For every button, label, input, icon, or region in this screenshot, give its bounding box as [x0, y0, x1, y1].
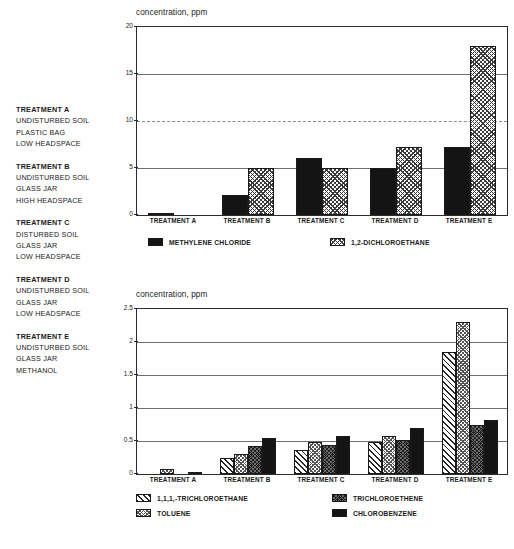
y-axis-tick-label: 5	[111, 163, 133, 170]
chart-title-bottom: concentration, ppm	[136, 290, 207, 299]
legend-item: TOLUENE	[136, 509, 190, 517]
x-axis-category-label: TREATMENT E	[432, 476, 506, 483]
bar	[382, 436, 396, 474]
chart-legend-bottom: 1,1,1,-TRICHLOROETHANETOLUENETRICHLOROET…	[130, 492, 510, 526]
bar-group	[444, 27, 496, 215]
bar	[368, 442, 382, 474]
bar	[248, 446, 262, 474]
legend-item: CHLOROBENZENE	[332, 509, 417, 517]
treatment-key: TREATMENT AUNDISTURBED SOILPLASTIC BAGLO…	[16, 104, 128, 387]
treatment-detail-line: GLASS JAR	[16, 353, 128, 364]
bar	[370, 168, 396, 215]
legend-swatch	[136, 494, 151, 502]
plot-area-bottom	[136, 308, 508, 475]
treatment-block: TREATMENT CDISTURBED SOILGLASS JARLOW HE…	[16, 217, 128, 263]
bar	[262, 438, 276, 474]
legend-label: 1,1,1,-TRICHLOROETHANE	[157, 495, 248, 502]
legend-label: 1,2-DICHLOROETHANE	[351, 239, 430, 246]
chart-title-top: concentration, ppm	[136, 8, 207, 17]
treatment-block: TREATMENT AUNDISTURBED SOILPLASTIC BAGLO…	[16, 104, 128, 150]
bar	[294, 450, 308, 474]
y-axis-tick-label: 20	[111, 22, 133, 29]
bar	[148, 213, 174, 215]
chart-methylene-dichloroethane: concentration, ppm METHYLENE CHLORIDE1,2…	[130, 4, 510, 259]
bar	[396, 440, 410, 474]
treatment-title: TREATMENT D	[16, 274, 128, 285]
bar-group	[442, 309, 498, 474]
bar	[410, 428, 424, 474]
y-axis-tick-label: 2.5	[111, 304, 133, 311]
y-axis-tick-mark	[134, 407, 138, 408]
legend-swatch	[332, 494, 347, 502]
treatment-detail-line: DISTURBED SOIL	[16, 229, 128, 240]
bar	[442, 352, 456, 474]
y-axis-tick-label: 15	[111, 69, 133, 76]
bar-group	[294, 309, 350, 474]
y-axis-tick-label: 2	[111, 337, 133, 344]
treatment-title: TREATMENT C	[16, 217, 128, 228]
treatment-title: TREATMENT A	[16, 104, 128, 115]
legend-label: METHYLENE CHLORIDE	[169, 239, 251, 246]
treatment-detail-line: LOW HEADSPACE	[16, 251, 128, 262]
bar-group	[222, 27, 274, 215]
legend-label: TRICHLOROETHENE	[353, 495, 423, 502]
treatment-detail-line: HIGH HEADSPACE	[16, 195, 128, 206]
legend-label: TOLUENE	[157, 510, 190, 517]
legend-swatch	[332, 509, 347, 517]
y-axis-tick-mark	[134, 473, 138, 474]
bar-group	[368, 309, 424, 474]
bar	[336, 436, 350, 474]
y-axis-tick-mark	[134, 73, 138, 74]
treatment-detail-line: UNDISTURBED SOIL	[16, 172, 128, 183]
bar-group	[146, 309, 202, 474]
bar	[322, 168, 348, 215]
figure-page: TREATMENT AUNDISTURBED SOILPLASTIC BAGLO…	[0, 0, 514, 549]
y-axis-tick-label: 0.5	[111, 436, 133, 443]
y-axis-tick-mark	[134, 440, 138, 441]
treatment-detail-line: PLASTIC BAG	[16, 127, 128, 138]
plot-area-top	[136, 26, 508, 216]
bar	[396, 147, 422, 215]
treatment-detail-line: GLASS JAR	[16, 240, 128, 251]
x-axis-category-label: TREATMENT C	[284, 217, 358, 224]
x-axis-category-label: TREATMENT D	[358, 217, 432, 224]
treatment-block: TREATMENT DUNDISTURBED SOILGLASS JARLOW …	[16, 274, 128, 320]
chart-legend-top: METHYLENE CHLORIDE1,2-DICHLOROETHANE	[130, 234, 510, 254]
legend-swatch	[136, 509, 151, 517]
legend-swatch	[148, 238, 163, 246]
y-axis-tick-mark	[134, 214, 138, 215]
x-axis-category-label: TREATMENT A	[136, 217, 210, 224]
x-axis-category-label: TREATMENT E	[432, 217, 506, 224]
bar	[470, 425, 484, 475]
treatment-detail-line: UNDISTURBED SOIL	[16, 285, 128, 296]
y-axis-tick-label: 1.5	[111, 370, 133, 377]
x-axis-category-label: TREATMENT C	[284, 476, 358, 483]
bar	[222, 195, 248, 215]
y-axis-tick-mark	[134, 308, 138, 309]
chart-voc-four-series: concentration, ppm 1,1,1,-TRICHLOROETHAN…	[130, 288, 510, 546]
y-axis-tick-mark	[134, 374, 138, 375]
y-axis-tick-mark	[134, 120, 138, 121]
x-axis-category-label: TREATMENT B	[210, 217, 284, 224]
treatment-detail-line: LOW HEADSPACE	[16, 138, 128, 149]
legend-label: CHLOROBENZENE	[353, 510, 417, 517]
bar-group	[148, 27, 200, 215]
legend-item: TRICHLOROETHENE	[332, 494, 423, 502]
x-axis-category-label: TREATMENT D	[358, 476, 432, 483]
y-axis-tick-label: 0	[111, 469, 133, 476]
bar	[220, 458, 234, 475]
bar	[248, 168, 274, 215]
y-axis-tick-mark	[134, 26, 138, 27]
bar	[322, 445, 336, 474]
bar	[484, 420, 498, 474]
legend-item: METHYLENE CHLORIDE	[148, 238, 251, 246]
bar-group	[370, 27, 422, 215]
bar	[234, 454, 248, 474]
bar	[160, 469, 174, 474]
y-axis-tick-label: 0	[111, 210, 133, 217]
bar	[296, 158, 322, 215]
bar	[456, 322, 470, 474]
bar	[308, 442, 322, 474]
y-axis-tick-label: 10	[111, 116, 133, 123]
x-axis-category-label: TREATMENT A	[136, 476, 210, 483]
